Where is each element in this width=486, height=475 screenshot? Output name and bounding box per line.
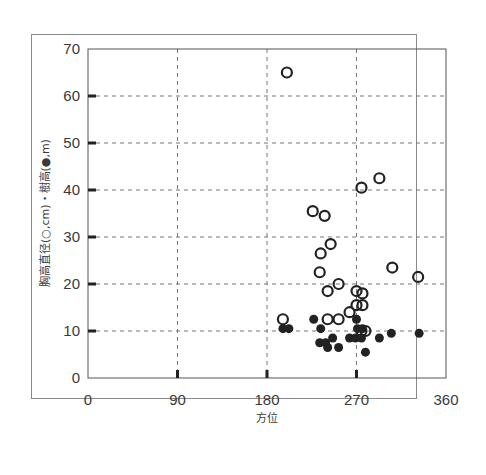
dbh-point xyxy=(278,314,288,324)
height-point xyxy=(387,329,396,338)
height-point xyxy=(361,348,370,357)
dbh-point xyxy=(323,286,333,296)
dbh-point xyxy=(320,211,330,221)
dbh-point xyxy=(308,206,318,216)
y-tick-label: 50 xyxy=(63,134,80,151)
y-tick-mark xyxy=(88,283,96,286)
dbh-point xyxy=(387,263,397,273)
dbh-point xyxy=(413,272,423,282)
dbh-point xyxy=(334,314,344,324)
height-point xyxy=(375,334,384,343)
dbh-point xyxy=(315,267,325,277)
height-point xyxy=(415,329,424,338)
y-tick-label: 70 xyxy=(63,40,80,57)
y-axis-title: 胸高直径(○,cm)・樹高(●,m) xyxy=(38,139,52,287)
dbh-point xyxy=(326,239,336,249)
y-tick-label: 0 xyxy=(72,369,80,386)
x-tick-label: 90 xyxy=(169,391,186,408)
x-tick-mark xyxy=(176,370,179,378)
x-tick-mark xyxy=(266,370,269,378)
y-tick-mark xyxy=(88,330,96,333)
x-tick-label: 360 xyxy=(433,391,458,408)
y-tick-mark xyxy=(88,142,96,145)
x-tick-label: 0 xyxy=(84,391,92,408)
height-point xyxy=(352,315,361,324)
height-point xyxy=(316,324,325,333)
y-tick-mark xyxy=(88,236,96,239)
y-tick-mark xyxy=(88,95,96,98)
height-point xyxy=(309,315,318,324)
y-tick-mark xyxy=(88,189,96,192)
dbh-point xyxy=(282,68,292,78)
scatter-chart: 090180270360 010203040506070 方位 胸高直径(○,c… xyxy=(0,0,486,475)
dbh-point xyxy=(356,183,366,193)
x-tick-label: 180 xyxy=(254,391,279,408)
x-axis-title: 方位 xyxy=(256,411,278,425)
dbh-point xyxy=(374,173,384,183)
axis-ticks xyxy=(88,95,358,379)
x-tick-label: 270 xyxy=(344,391,369,408)
dbh-point xyxy=(345,307,355,317)
y-tick-label: 10 xyxy=(63,322,80,339)
height-point xyxy=(323,343,332,352)
x-tick-labels: 090180270360 xyxy=(84,391,459,408)
grid-lines xyxy=(88,49,446,378)
height-point xyxy=(284,324,293,333)
data-points xyxy=(278,68,424,357)
dbh-point xyxy=(316,248,326,258)
height-point xyxy=(334,343,343,352)
y-tick-labels: 010203040506070 xyxy=(63,40,80,386)
x-tick-mark xyxy=(355,370,358,378)
height-point xyxy=(357,334,366,343)
y-tick-label: 20 xyxy=(63,275,80,292)
dbh-point xyxy=(323,314,333,324)
height-point xyxy=(358,324,367,333)
y-tick-label: 60 xyxy=(63,87,80,104)
y-tick-label: 30 xyxy=(63,228,80,245)
y-tick-label: 40 xyxy=(63,181,80,198)
